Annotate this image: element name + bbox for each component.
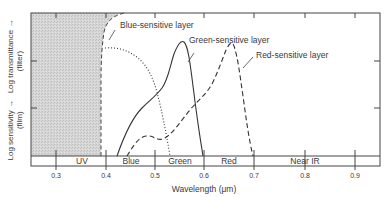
x-tick-label-0.5: 0.5 (150, 172, 160, 179)
x-tick-label-0.3: 0.3 (51, 172, 61, 179)
x-tick-label-0.4: 0.4 (101, 172, 111, 179)
y-axis-title-line1: Log sensitivity → Log transmittance → (6, 20, 15, 161)
x-tick-label-0.6: 0.6 (199, 172, 209, 179)
red-layer-label: Red-sensitive layer (256, 50, 328, 60)
green-layer-label: Green-sensitive layer (189, 35, 269, 45)
x-tick-label-0.9: 0.9 (350, 172, 360, 179)
spectral-sensitivity-chart: Blue-sensitive layer Green-sensitive lay… (0, 0, 388, 197)
band-label-green: Green (168, 156, 192, 166)
x-axis-title: Wavelength (μm) (172, 184, 237, 194)
y-axis-title-line2: (film) (filter) (15, 51, 24, 130)
blue-label-leader (109, 30, 115, 40)
blue-layer-label: Blue-sensitive layer (120, 20, 194, 30)
band-label-red: Red (221, 156, 237, 166)
red-label-leader (243, 57, 253, 68)
filter-shaded-region (31, 13, 122, 156)
band-label-near-ir: Near IR (290, 156, 319, 166)
band-label-blue: Blue (122, 156, 139, 166)
x-tick-label-0.8: 0.8 (300, 172, 310, 179)
x-tick-label-0.7: 0.7 (249, 172, 259, 179)
band-label-uv: UV (76, 156, 88, 166)
